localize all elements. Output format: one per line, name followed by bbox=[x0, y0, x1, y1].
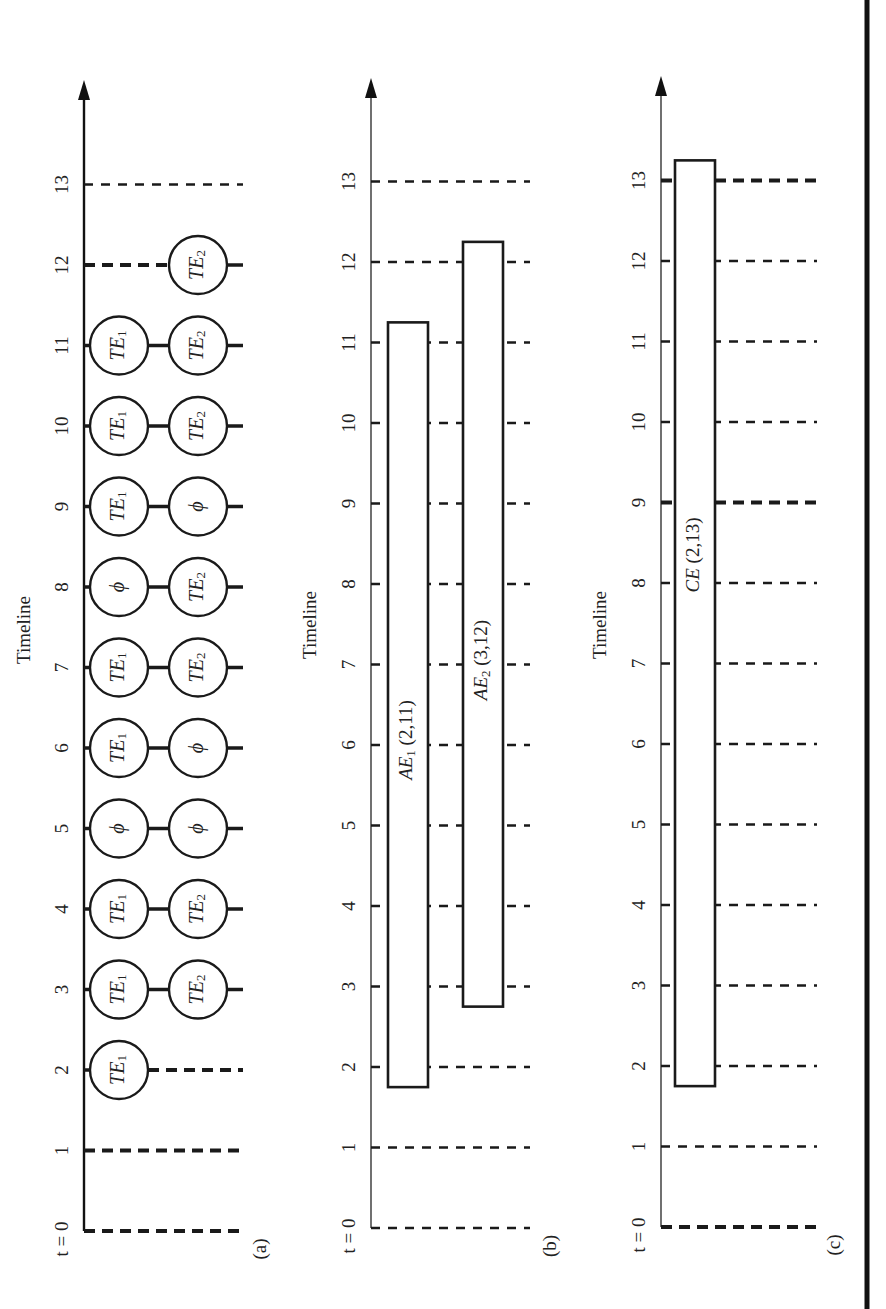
tick-label-9: 9 bbox=[628, 498, 649, 508]
tick-label-2: 2 bbox=[51, 1065, 72, 1075]
tick-label-9: 9 bbox=[338, 499, 359, 509]
axis-title: Timeline bbox=[589, 591, 610, 659]
tick-label-12: 12 bbox=[51, 256, 72, 275]
tick-label-1: 1 bbox=[628, 1142, 649, 1152]
tick-label-4: 4 bbox=[51, 904, 72, 914]
null-event-phi-icon: ϕ bbox=[106, 582, 129, 592]
null-event-phi-icon: ϕ bbox=[185, 823, 208, 833]
tick-label-12: 12 bbox=[338, 253, 359, 272]
tick-label-4: 4 bbox=[628, 900, 649, 910]
axis-title: Timeline bbox=[13, 596, 34, 664]
tick-label-8: 8 bbox=[628, 578, 649, 588]
tick-label-12: 12 bbox=[628, 252, 649, 271]
tick-label-5: 5 bbox=[338, 821, 359, 831]
tick-label-3: 3 bbox=[628, 981, 649, 991]
panel-label: (a) bbox=[249, 1238, 271, 1259]
tick-label-7: 7 bbox=[51, 663, 72, 673]
tick-label-13: 13 bbox=[51, 175, 72, 194]
null-event-phi-icon: ϕ bbox=[185, 743, 208, 753]
tick-label-6: 6 bbox=[51, 743, 72, 753]
tick-label-11: 11 bbox=[338, 333, 359, 351]
tick-label-11: 11 bbox=[628, 332, 649, 350]
axis-arrowhead-icon bbox=[78, 80, 90, 100]
tick-label-8: 8 bbox=[338, 579, 359, 589]
panel-c-complex-event: Timelinet = 012345678910111213(c)CE (2,1… bbox=[589, 76, 845, 1256]
tick-label-4: 4 bbox=[338, 901, 359, 911]
tick-label-5: 5 bbox=[51, 824, 72, 834]
panel-a-tuple-events: Timelinet = 012345678910111213(a)TE1TE1T… bbox=[13, 80, 271, 1260]
panel-b-atomic-events: Timelinet = 012345678910111213(b)AE1 (2,… bbox=[299, 78, 561, 1257]
tick-label-6: 6 bbox=[338, 740, 359, 750]
tick-label-10: 10 bbox=[51, 417, 72, 436]
panel-label: (b) bbox=[539, 1235, 561, 1257]
tick-label-9: 9 bbox=[51, 502, 72, 512]
tick-label-13: 13 bbox=[338, 172, 359, 191]
tick-label-10: 10 bbox=[338, 414, 359, 433]
tick-label-10: 10 bbox=[628, 413, 649, 432]
tick-label-0: t = 0 bbox=[338, 1219, 359, 1254]
tick-label-0: t = 0 bbox=[51, 1222, 72, 1257]
axis-arrowhead-icon bbox=[655, 76, 667, 96]
tick-label-13: 13 bbox=[628, 171, 649, 190]
tick-label-1: 1 bbox=[338, 1143, 359, 1153]
axis-title: Timeline bbox=[299, 591, 320, 659]
tick-label-0: t = 0 bbox=[628, 1218, 649, 1253]
tick-label-1: 1 bbox=[51, 1146, 72, 1156]
tick-label-2: 2 bbox=[338, 1062, 359, 1072]
tick-label-3: 3 bbox=[51, 985, 72, 995]
tick-label-8: 8 bbox=[51, 582, 72, 592]
tick-label-5: 5 bbox=[628, 820, 649, 830]
tick-label-7: 7 bbox=[338, 660, 359, 670]
axis-arrowhead-icon bbox=[365, 78, 377, 98]
panel-label: (c) bbox=[823, 1234, 845, 1255]
tick-label-11: 11 bbox=[51, 336, 72, 354]
timeline-figure: Timelinet = 012345678910111213(a)TE1TE1T… bbox=[0, 0, 886, 1309]
null-event-phi-icon: ϕ bbox=[106, 823, 129, 833]
tick-label-2: 2 bbox=[628, 1061, 649, 1071]
event-interval-label: AE2 (3,12) bbox=[470, 620, 493, 702]
event-interval-label: AE1 (2,11) bbox=[395, 700, 418, 782]
tick-label-6: 6 bbox=[628, 739, 649, 749]
null-event-phi-icon: ϕ bbox=[185, 501, 208, 511]
tick-label-3: 3 bbox=[338, 982, 359, 992]
event-interval-label: CE (2,13) bbox=[682, 518, 704, 593]
event-interval-bar bbox=[675, 160, 715, 1086]
tick-label-7: 7 bbox=[628, 659, 649, 669]
